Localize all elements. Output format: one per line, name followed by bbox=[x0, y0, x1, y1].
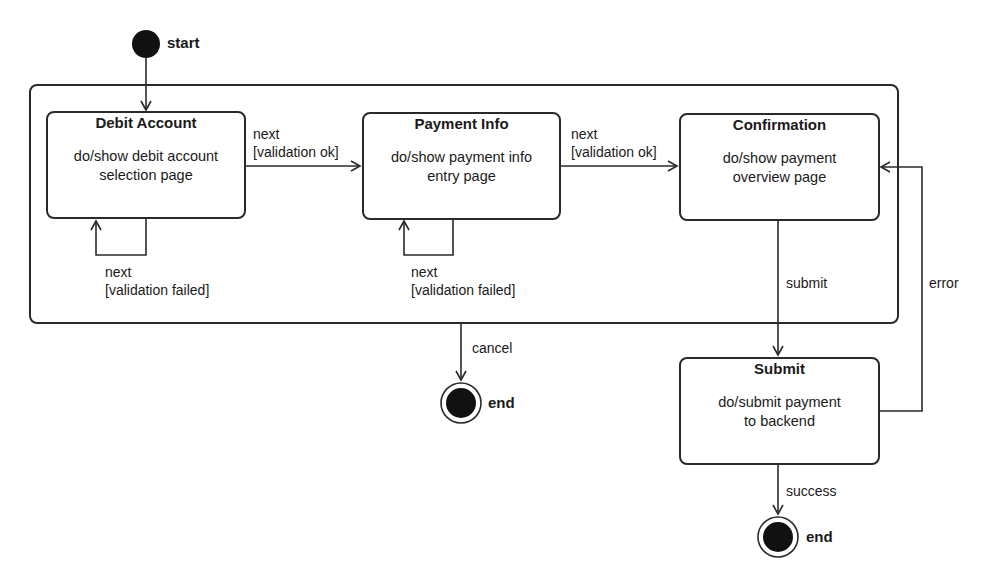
event-label: next bbox=[253, 125, 339, 143]
end-cancel-label: end bbox=[488, 394, 515, 411]
label-cancel: cancel bbox=[472, 339, 512, 357]
guard-label: [validation ok] bbox=[253, 143, 339, 161]
state-title: Payment Info bbox=[364, 115, 559, 132]
state-activity: do/show payment info entry page bbox=[364, 148, 559, 186]
state-title: Submit bbox=[681, 360, 878, 377]
label-payment-self-loop: next [validation failed] bbox=[411, 263, 515, 299]
guard-label: [validation ok] bbox=[571, 143, 657, 161]
activity-line: do/submit payment bbox=[681, 393, 878, 412]
activity-line: do/show payment bbox=[681, 149, 878, 168]
label-payment-to-confirmation: next [validation ok] bbox=[571, 125, 657, 161]
label-success: success bbox=[786, 482, 837, 500]
label-debit-self-loop: next [validation failed] bbox=[105, 263, 209, 299]
activity-line: selection page bbox=[48, 166, 244, 185]
activity-line: do/show debit account bbox=[48, 147, 244, 166]
label-error: error bbox=[929, 274, 959, 292]
state-submit[interactable]: Submit do/submit payment to backend bbox=[679, 357, 880, 465]
start-node-icon bbox=[132, 30, 160, 58]
state-title: Confirmation bbox=[681, 116, 878, 133]
activity-line: entry page bbox=[364, 167, 559, 186]
start-label: start bbox=[167, 34, 200, 51]
activity-line: overview page bbox=[681, 168, 878, 187]
state-title: Debit Account bbox=[48, 114, 244, 131]
state-activity: do/show payment overview page bbox=[681, 149, 878, 187]
state-confirmation[interactable]: Confirmation do/show payment overview pa… bbox=[679, 113, 880, 221]
state-activity: do/show debit account selection page bbox=[48, 147, 244, 185]
label-debit-to-payment: next [validation ok] bbox=[253, 125, 339, 161]
label-submit: submit bbox=[786, 274, 827, 292]
state-payment-info[interactable]: Payment Info do/show payment info entry … bbox=[362, 112, 561, 220]
state-activity: do/submit payment to backend bbox=[681, 393, 878, 431]
activity-line: do/show payment info bbox=[364, 148, 559, 167]
event-label: next bbox=[411, 263, 515, 281]
guard-label: [validation failed] bbox=[411, 281, 515, 299]
event-label: next bbox=[105, 263, 209, 281]
state-debit-account[interactable]: Debit Account do/show debit account sele… bbox=[46, 111, 246, 219]
guard-label: [validation failed] bbox=[105, 281, 209, 299]
event-label: next bbox=[571, 125, 657, 143]
end-success-label: end bbox=[806, 528, 833, 545]
activity-line: to backend bbox=[681, 412, 878, 431]
